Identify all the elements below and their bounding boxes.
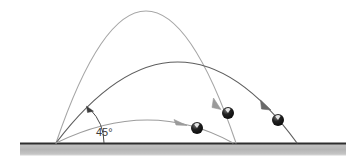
trajectory-high bbox=[56, 11, 236, 143]
ball-low bbox=[191, 122, 203, 134]
trajectory-low-path bbox=[56, 120, 233, 143]
angle-label: 45° bbox=[96, 126, 113, 138]
trajectory-low-arrowhead bbox=[174, 120, 187, 126]
projectile-figure: 45° bbox=[0, 0, 354, 163]
ball-mid bbox=[272, 114, 284, 126]
ground-group bbox=[20, 143, 346, 155]
ground-fill bbox=[20, 143, 346, 155]
ball-high bbox=[222, 107, 234, 119]
trajectory-high-path bbox=[56, 11, 236, 143]
figure-canvas: 45° bbox=[0, 0, 354, 163]
angle-arc-arrowhead bbox=[87, 106, 94, 112]
trajectory-mid-arrowhead bbox=[261, 100, 272, 110]
trajectory-mid bbox=[56, 62, 297, 143]
trajectory-low bbox=[56, 120, 233, 144]
